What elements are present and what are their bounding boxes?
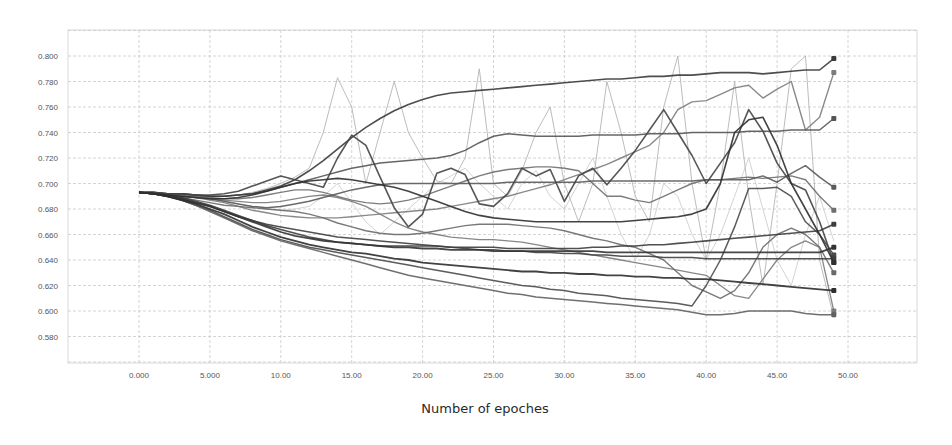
- series-end-marker: [831, 312, 836, 317]
- y-tick-label: 0.720: [38, 154, 59, 163]
- y-tick-label: 0.660: [38, 231, 59, 240]
- x-tick-label: 20.00: [413, 371, 434, 380]
- x-tick-label: 40.00: [696, 371, 717, 380]
- series-end-marker: [831, 222, 836, 227]
- y-tick-label: 0.600: [38, 307, 59, 316]
- x-tick-label: 50.00: [838, 371, 859, 380]
- y-axis-ticks: 0.8000.7800.7600.7400.7200.7000.6800.660…: [38, 52, 59, 342]
- x-tick-label: 25.00: [483, 371, 504, 380]
- y-tick-label: 0.740: [38, 129, 59, 138]
- y-tick-label: 0.700: [38, 180, 59, 189]
- y-tick-label: 0.800: [38, 52, 59, 61]
- x-tick-label: 30.00: [554, 371, 575, 380]
- series-end-marker: [831, 185, 836, 190]
- series-lines: [139, 56, 836, 317]
- series-end-marker: [831, 70, 836, 75]
- y-tick-label: 0.680: [38, 205, 59, 214]
- x-axis-label: Number of epoches: [380, 401, 590, 416]
- series-end-marker: [831, 116, 836, 121]
- x-tick-label: 35.00: [625, 371, 646, 380]
- x-tick-label: 0.000: [129, 371, 150, 380]
- series-end-marker: [831, 56, 836, 61]
- series-end-marker: [831, 288, 836, 293]
- series-end-marker: [831, 270, 836, 275]
- series-end-marker: [831, 260, 836, 265]
- x-tick-label: 15.00: [342, 371, 363, 380]
- x-tick-label: 45.00: [767, 371, 788, 380]
- y-tick-label: 0.640: [38, 256, 59, 265]
- y-tick-label: 0.760: [38, 103, 59, 112]
- x-tick-label: 5.000: [200, 371, 221, 380]
- line-chart: 0.8000.7800.7600.7400.7200.7000.6800.660…: [0, 0, 952, 445]
- series-end-marker: [831, 245, 836, 250]
- series-end-marker: [831, 208, 836, 213]
- y-tick-label: 0.780: [38, 78, 59, 87]
- y-tick-label: 0.580: [38, 333, 59, 342]
- series-line-run-16: [139, 56, 834, 317]
- x-axis-ticks: 0.0005.00010.0015.0020.0025.0030.0035.00…: [129, 371, 859, 380]
- x-tick-label: 10.00: [271, 371, 292, 380]
- y-tick-label: 0.620: [38, 282, 59, 291]
